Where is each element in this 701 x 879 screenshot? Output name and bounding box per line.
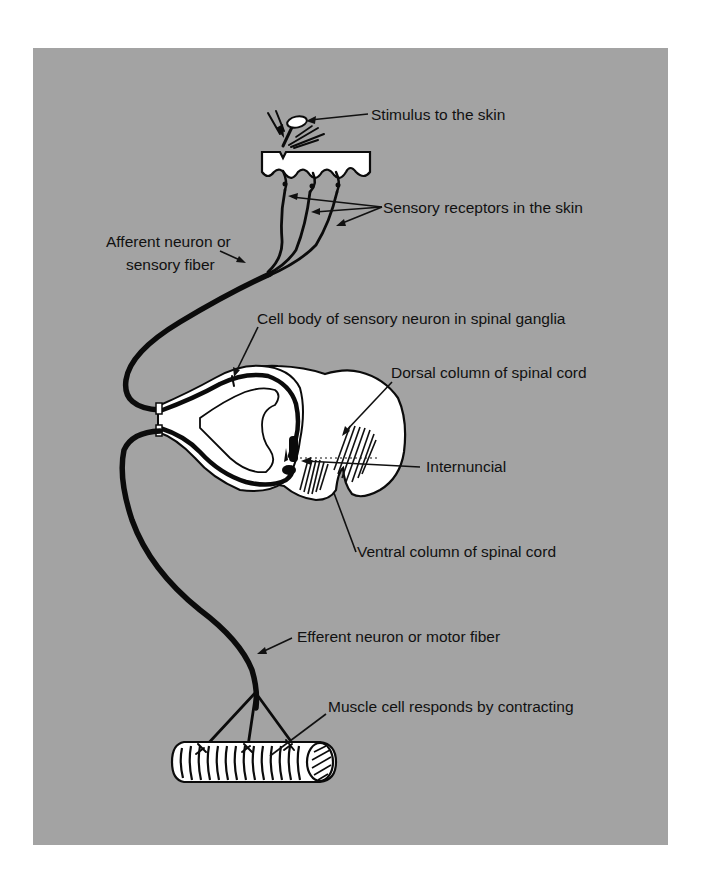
skin-block — [262, 152, 370, 178]
label-afferent-line1: Afferent neuron or — [106, 233, 231, 250]
label-cell-body: Cell body of sensory neuron in spinal ga… — [257, 310, 566, 327]
label-efferent: Efferent neuron or motor fiber — [297, 628, 500, 645]
label-stimulus: Stimulus to the skin — [371, 106, 505, 123]
label-ventral-column: Ventral column of spinal cord — [357, 543, 556, 560]
muscle-cell — [172, 740, 336, 782]
label-sensory-receptors: Sensory receptors in the skin — [383, 199, 583, 216]
motor-end-branches — [204, 692, 290, 748]
label-afferent-line2: sensory fiber — [126, 256, 215, 273]
label-dorsal-column: Dorsal column of spinal cord — [391, 364, 587, 381]
label-internuncial: Internuncial — [426, 458, 506, 475]
reflex-arc-diagram: Stimulus to the skin Sensory receptors i… — [0, 0, 701, 879]
label-muscle-cell: Muscle cell responds by contracting — [328, 698, 574, 715]
spinal-ganglion-and-roots — [156, 366, 303, 491]
